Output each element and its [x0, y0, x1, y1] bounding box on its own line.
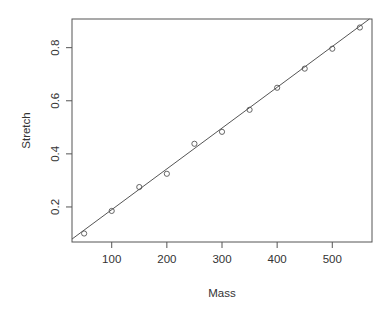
x-axis-label: Mass: [208, 287, 236, 299]
data-point: [82, 231, 87, 236]
y-axis: 0.20.40.60.8: [49, 40, 72, 215]
x-axis: 100200300400500: [102, 242, 342, 265]
plot-frame: [72, 19, 372, 242]
data-point: [219, 129, 224, 134]
regression-line: [72, 19, 369, 239]
points-layer: [82, 25, 363, 236]
y-axis-label: Stretch: [20, 112, 32, 148]
y-tick-label: 0.4: [49, 145, 61, 162]
x-tick-label: 100: [102, 253, 121, 265]
x-tick-label: 500: [323, 253, 342, 265]
fit-line-layer: [72, 19, 369, 239]
data-point: [164, 171, 169, 176]
y-tick-label: 0.8: [49, 40, 61, 56]
x-tick-label: 400: [268, 253, 287, 265]
x-tick-label: 300: [212, 253, 231, 265]
x-tick-label: 200: [157, 253, 176, 265]
scatter-plot: 100200300400500 0.20.40.60.8 Mass Stretc…: [0, 0, 392, 310]
y-tick-label: 0.6: [49, 93, 61, 109]
data-point: [192, 141, 197, 146]
y-tick-label: 0.2: [49, 199, 61, 215]
